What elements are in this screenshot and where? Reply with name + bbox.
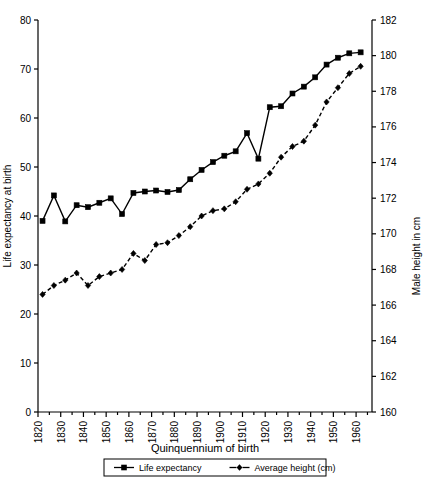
series-marker-1 — [142, 189, 147, 194]
x-axis-tick-label: 1840 — [78, 421, 89, 444]
series-marker-1 — [51, 193, 56, 198]
y-axis-left-tick-label: 10 — [20, 358, 32, 369]
series-marker-2 — [142, 258, 147, 264]
series-marker-1 — [131, 190, 136, 195]
legend-marker-square-icon — [121, 465, 127, 471]
x-axis-tick-label: 1960 — [351, 421, 362, 444]
series-marker-1 — [290, 91, 295, 96]
series-marker-2 — [63, 277, 68, 283]
y-axis-left-tick-label: 70 — [20, 64, 32, 75]
legend-label-1: Life expectancy — [139, 463, 202, 473]
x-axis-tick-label: 1900 — [215, 421, 226, 444]
x-axis-tick-label: 1880 — [169, 421, 180, 444]
y-axis-right-tick-label: 176 — [380, 121, 397, 132]
x-axis-title: Quinquennium of birth — [151, 442, 259, 454]
series-marker-1 — [199, 167, 204, 172]
series-marker-1 — [358, 50, 363, 55]
dual-axis-line-chart: 0102030405060708016016216416616817017217… — [0, 0, 430, 481]
series-marker-2 — [51, 282, 56, 288]
x-axis-tick-label: 1890 — [192, 421, 203, 444]
y-axis-left-tick-label: 0 — [25, 407, 31, 418]
y-axis-right-tick-label: 182 — [380, 15, 397, 26]
series-marker-2 — [119, 266, 124, 272]
y-axis-right-title: Male height in cm — [411, 217, 422, 295]
y-axis-left-tick-label: 30 — [20, 260, 32, 271]
y-axis-left-tick-label: 60 — [20, 113, 32, 124]
series-marker-1 — [256, 156, 261, 161]
series-marker-1 — [154, 188, 159, 193]
series-marker-2 — [301, 138, 306, 144]
y-axis-left-tick-label: 20 — [20, 309, 32, 320]
series-marker-1 — [279, 104, 284, 109]
series-marker-1 — [267, 105, 272, 110]
legend-label-2: Average height (cm) — [255, 463, 336, 473]
series-marker-2 — [358, 63, 363, 69]
series-marker-1 — [347, 51, 352, 56]
series-marker-1 — [165, 189, 170, 194]
series-marker-2 — [278, 154, 283, 160]
series-marker-1 — [63, 219, 68, 224]
series-marker-1 — [85, 205, 90, 210]
x-axis-tick-label: 1940 — [306, 421, 317, 444]
series-marker-2 — [165, 240, 170, 246]
series-marker-1 — [301, 84, 306, 89]
y-axis-right-tick-label: 178 — [380, 86, 397, 97]
x-axis-tick-label: 1820 — [33, 421, 44, 444]
series-marker-1 — [222, 153, 227, 158]
series-marker-2 — [222, 206, 227, 212]
series-marker-1 — [40, 218, 45, 223]
y-axis-right-tick-label: 170 — [380, 228, 397, 239]
y-axis-right-tick-label: 172 — [380, 193, 397, 204]
series-marker-1 — [324, 62, 329, 67]
series-marker-1 — [313, 75, 318, 80]
series-marker-2 — [233, 199, 238, 205]
y-axis-right-tick-label: 166 — [380, 300, 397, 311]
y-axis-left-title: Life expectancy at birth — [2, 165, 13, 268]
chart-figure: 0102030405060708016016216416616817017217… — [0, 0, 430, 481]
series-marker-2 — [324, 99, 329, 105]
x-axis-tick-label: 1930 — [283, 421, 294, 444]
series-marker-1 — [108, 196, 113, 201]
y-axis-left-tick-label: 80 — [20, 15, 32, 26]
y-axis-right-tick-label: 164 — [380, 335, 397, 346]
x-axis-tick-label: 1920 — [260, 421, 271, 444]
x-axis-tick-label: 1830 — [56, 421, 67, 444]
y-axis-right-tick-label: 160 — [380, 407, 397, 418]
x-axis-tick-label: 1910 — [237, 421, 248, 444]
y-axis-right-tick-label: 180 — [380, 50, 397, 61]
x-axis-tick-label: 1860 — [124, 421, 135, 444]
series-marker-1 — [176, 188, 181, 193]
series-marker-2 — [210, 208, 215, 214]
series-marker-1 — [335, 55, 340, 60]
series-marker-1 — [245, 131, 250, 136]
series-marker-2 — [267, 170, 272, 176]
series-line-2 — [43, 66, 361, 294]
series-marker-1 — [74, 203, 79, 208]
series-marker-1 — [233, 149, 238, 154]
y-axis-left-tick-label: 40 — [20, 211, 32, 222]
series-marker-2 — [176, 233, 181, 239]
series-marker-1 — [210, 160, 215, 165]
y-axis-left-tick-label: 50 — [20, 162, 32, 173]
series-marker-1 — [120, 212, 125, 217]
series-marker-1 — [97, 200, 102, 205]
x-axis-tick-label: 1950 — [328, 421, 339, 444]
series-marker-1 — [188, 177, 193, 182]
series-marker-2 — [108, 270, 113, 276]
y-axis-right-tick-label: 174 — [380, 157, 397, 168]
x-axis-tick-label: 1870 — [147, 421, 158, 444]
x-axis-tick-label: 1850 — [101, 421, 112, 444]
y-axis-right-tick-label: 162 — [380, 371, 397, 382]
y-axis-right-tick-label: 168 — [380, 264, 397, 275]
